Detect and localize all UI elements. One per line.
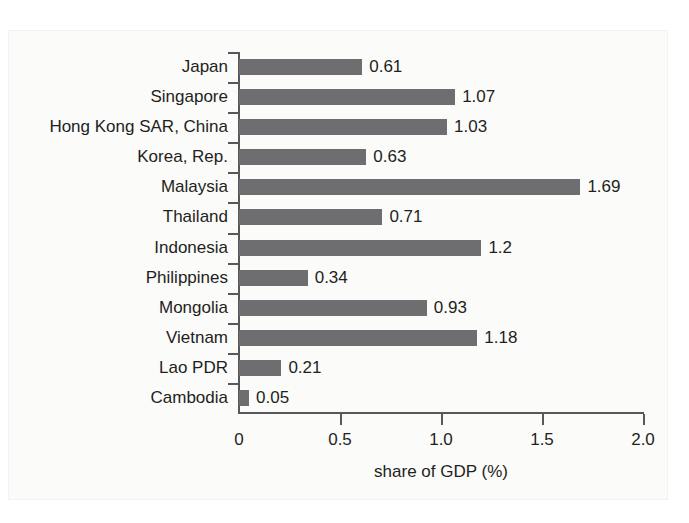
bar-value-label: 0.71 <box>389 204 422 230</box>
bar-row: Indonesia1.2 <box>239 233 643 263</box>
bar <box>239 240 481 256</box>
bar-row: Vietnam1.18 <box>239 323 643 353</box>
bar-row: Philippines0.34 <box>239 263 643 293</box>
bar-row: Thailand0.71 <box>239 202 643 232</box>
bar-value-label: 1.07 <box>462 84 495 110</box>
category-label: Mongolia <box>0 293 236 323</box>
category-label: Singapore <box>0 82 236 112</box>
bar <box>239 330 477 346</box>
bar <box>239 209 382 225</box>
x-axis-title: share of GDP (%) <box>239 462 643 482</box>
bar-value-label: 1.18 <box>484 325 517 351</box>
bar <box>239 149 366 165</box>
bar-value-label: 0.63 <box>373 144 406 170</box>
y-axis-tick <box>228 82 239 84</box>
bar-chart-figure: Japan0.61Singapore1.07Hong Kong SAR, Chi… <box>0 0 689 523</box>
category-label: Lao PDR <box>0 353 236 383</box>
category-label: Malaysia <box>0 172 236 202</box>
x-axis-tick <box>542 414 544 425</box>
y-axis-tick <box>228 112 239 114</box>
plot-area: Japan0.61Singapore1.07Hong Kong SAR, Chi… <box>239 52 643 413</box>
category-label: Vietnam <box>0 323 236 353</box>
y-axis-tick <box>228 353 239 355</box>
y-axis-tick <box>228 263 239 265</box>
x-axis-tick-label: 0.5 <box>328 430 352 450</box>
y-axis-tick <box>228 323 239 325</box>
bar-value-label: 0.34 <box>315 265 348 291</box>
category-label: Philippines <box>0 263 236 293</box>
x-axis-tick-label: 2.0 <box>631 430 655 450</box>
x-axis-tick <box>441 414 443 425</box>
x-axis-tick-label: 1.5 <box>530 430 554 450</box>
bar-row: Cambodia0.05 <box>239 383 643 413</box>
bar-row: Malaysia1.69 <box>239 172 643 202</box>
bar <box>239 300 427 316</box>
x-axis-tick-label: 0 <box>234 430 243 450</box>
bar <box>239 59 362 75</box>
bar-row: Mongolia0.93 <box>239 293 643 323</box>
category-label: Korea, Rep. <box>0 142 236 172</box>
bar-row: Singapore1.07 <box>239 82 643 112</box>
y-axis-tick <box>228 202 239 204</box>
bar-value-label: 1.2 <box>488 235 512 261</box>
x-axis-tick <box>340 414 342 425</box>
bar-value-label: 0.93 <box>434 295 467 321</box>
bar <box>239 179 580 195</box>
bar <box>239 360 281 376</box>
bar <box>239 89 455 105</box>
bar-value-label: 0.61 <box>369 54 402 80</box>
category-label: Japan <box>0 52 236 82</box>
bar-value-label: 1.69 <box>587 174 620 200</box>
chart-page: Japan0.61Singapore1.07Hong Kong SAR, Chi… <box>0 0 689 523</box>
y-axis-tick <box>228 142 239 144</box>
y-axis-tick <box>228 293 239 295</box>
x-axis-tick-label: 1.0 <box>429 430 453 450</box>
bar-value-label: 0.21 <box>288 355 321 381</box>
category-label: Cambodia <box>0 383 236 413</box>
y-axis-tick <box>228 172 239 174</box>
bar-row: Hong Kong SAR, China1.03 <box>239 112 643 142</box>
bar-row: Japan0.61 <box>239 52 643 82</box>
bar <box>239 119 447 135</box>
bar-row: Korea, Rep.0.63 <box>239 142 643 172</box>
y-axis-tick <box>228 233 239 235</box>
y-axis-tick <box>228 52 239 54</box>
y-axis-tick <box>228 383 239 385</box>
bar <box>239 270 308 286</box>
x-axis-tick <box>643 414 645 425</box>
category-label: Thailand <box>0 202 236 232</box>
category-label: Indonesia <box>0 233 236 263</box>
category-label: Hong Kong SAR, China <box>0 112 236 142</box>
bar-value-label: 0.05 <box>256 385 289 411</box>
bar-row: Lao PDR0.21 <box>239 353 643 383</box>
bar <box>239 390 249 406</box>
bar-value-label: 1.03 <box>454 114 487 140</box>
